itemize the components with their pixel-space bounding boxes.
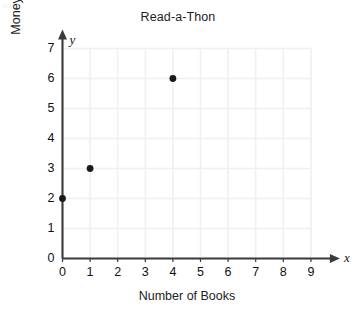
data-point: [170, 75, 177, 82]
y-axis-arrowhead: [58, 30, 67, 40]
x-tick-label: 8: [273, 265, 293, 279]
y-tick-label: 2: [39, 191, 55, 205]
x-axis-letter: x: [344, 250, 350, 266]
y-tick-label: 1: [39, 221, 55, 235]
y-axis-letter: y: [70, 32, 76, 48]
x-tick-label: 0: [53, 265, 73, 279]
x-tick-label: 4: [163, 265, 183, 279]
x-axis-arrowhead: [330, 254, 340, 263]
x-tick-label: 5: [191, 265, 211, 279]
x-tick-label: 1: [80, 265, 100, 279]
x-tick-label: 9: [301, 265, 321, 279]
chart-container: uuu Read-a-Thon Money (in dollars) Numbe…: [0, 0, 356, 312]
y-tick-label: 3: [39, 161, 55, 175]
y-tick-label: 4: [39, 131, 55, 145]
y-tick-label: 6: [39, 71, 55, 85]
x-tick-label: 7: [246, 265, 266, 279]
x-tick-label: 6: [218, 265, 238, 279]
y-tick-label: 7: [39, 41, 55, 55]
data-point: [87, 165, 94, 172]
data-point: [59, 195, 66, 202]
y-tick-label: 5: [39, 101, 55, 115]
y-tick-label: 0: [39, 251, 55, 265]
gridlines: [63, 49, 311, 259]
x-tick-label: 3: [135, 265, 155, 279]
x-tick-label: 2: [108, 265, 128, 279]
